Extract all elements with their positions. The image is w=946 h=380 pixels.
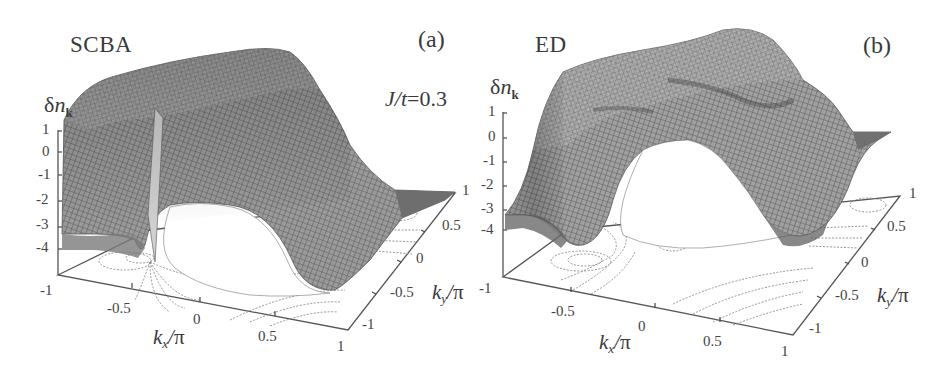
z-tick: -4 [36, 239, 49, 256]
z-tick: 0 [488, 128, 496, 145]
ky-tick: 0 [416, 250, 424, 267]
z-axis-label: δnk [490, 74, 519, 103]
kx-tick: 1 [781, 343, 789, 360]
kx-tick: -1 [40, 282, 53, 299]
ky-tick: 1 [909, 185, 917, 202]
ky-tick: 0.5 [887, 218, 906, 235]
z-tick: 1 [488, 103, 496, 120]
ky-tick: -1 [362, 316, 375, 333]
ky-tick: 0 [861, 254, 869, 271]
z-axis-b [503, 112, 507, 277]
ky-tick: -0.5 [390, 284, 414, 301]
panel-tag: (b) [863, 32, 891, 59]
kx-tick: -0.5 [107, 300, 131, 317]
kx-axis-label: kx/π [153, 325, 185, 352]
z-tick: 0 [42, 143, 50, 160]
method-label: ED [535, 32, 567, 58]
parameter-label: J/t=0.3 [385, 86, 447, 112]
z-tick: -2 [481, 176, 494, 193]
kx-axis-label: kx/π [599, 330, 631, 357]
z-axis-a [58, 130, 62, 275]
figure: SCBA (a) J/t=0.3 δnk 1 0 -1 -2 -3 -4 -1 … [0, 0, 946, 380]
z-tick: -1 [38, 166, 51, 183]
kx-tick: 1 [337, 338, 345, 355]
z-axis-label: δnk [44, 92, 73, 121]
kx-tick: 0.5 [703, 333, 722, 350]
ky-tick: -0.5 [835, 287, 859, 304]
z-tick: 1 [42, 121, 50, 138]
z-tick: -3 [481, 200, 494, 217]
z-tick: -2 [36, 191, 49, 208]
ky-axis-label: ky/π [432, 280, 464, 307]
z-tick: -1 [483, 152, 496, 169]
panel-tag: (a) [418, 26, 445, 53]
ky-tick: 0.5 [442, 217, 461, 234]
kx-tick: -1 [479, 280, 492, 297]
surface-b [505, 29, 891, 248]
panel-b: ED (b) δnk 1 0 -1 -2 -3 -4 -1 -0.5 0 0.5… [473, 0, 946, 380]
kx-tick: 0 [638, 318, 646, 335]
panel-a: SCBA (a) J/t=0.3 δnk 1 0 -1 -2 -3 -4 -1 … [0, 0, 473, 380]
kx-tick: 0 [193, 311, 201, 328]
z-tick: -3 [36, 216, 49, 233]
z-tick: -4 [481, 221, 494, 238]
kx-tick: 0.5 [258, 328, 277, 345]
method-label: SCBA [70, 32, 132, 58]
ky-axis-label: ky/π [877, 283, 909, 310]
kx-tick: -0.5 [551, 303, 575, 320]
ky-tick: -1 [809, 320, 822, 337]
ky-tick: 1 [462, 182, 470, 199]
